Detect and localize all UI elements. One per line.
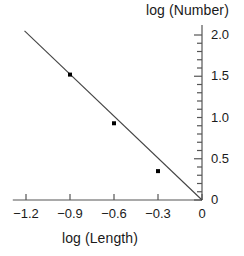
x-tick-label-2: −0.6	[91, 206, 137, 221]
regression-line	[25, 31, 202, 200]
data-point-0	[68, 73, 72, 77]
data-point-1	[112, 121, 116, 125]
x-tick-label-4: 0	[179, 206, 225, 221]
y-tick-label-3: 1.5	[211, 68, 229, 82]
x-axis	[13, 194, 202, 200]
fit-line	[25, 31, 202, 200]
y-tick-label-4: 2.0	[211, 27, 229, 41]
y-tick-label-1: 0.5	[211, 151, 229, 165]
x-tick-label-1: −0.9	[47, 206, 93, 221]
data-points	[68, 73, 160, 174]
y-axis	[194, 25, 202, 200]
chart-figure: log (Number) log (Length) −1.2−0.9−0.6−0…	[0, 0, 244, 256]
x-tick-label-0: −1.2	[3, 206, 49, 221]
x-tick-label-3: −0.3	[135, 206, 181, 221]
y-tick-label-2: 1.0	[211, 110, 229, 124]
data-point-2	[156, 169, 160, 173]
y-tick-label-0: 0	[211, 192, 218, 206]
